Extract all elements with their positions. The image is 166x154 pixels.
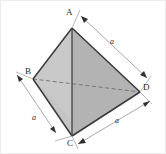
vertex-label-c: C bbox=[67, 139, 73, 148]
vertex-label-d: D bbox=[143, 83, 150, 92]
tetrahedron-figure: A B C D a a a bbox=[0, 0, 166, 154]
dim-bc-arrow-end bbox=[50, 126, 56, 133]
dim-bc-arrow-start bbox=[17, 75, 23, 82]
dim-ad-ext-a bbox=[72, 10, 80, 28]
dimension-label-bc: a bbox=[32, 114, 36, 122]
vertex-label-a: A bbox=[66, 8, 73, 17]
vertex-label-b: B bbox=[25, 67, 31, 76]
dim-cd-arrow-end bbox=[143, 101, 150, 107]
dimension-label-ad: a bbox=[110, 38, 114, 46]
dimension-label-cd: a bbox=[115, 117, 119, 125]
dim-cd-arrow-start bbox=[78, 138, 86, 144]
tetrahedron-drawing bbox=[0, 0, 166, 154]
